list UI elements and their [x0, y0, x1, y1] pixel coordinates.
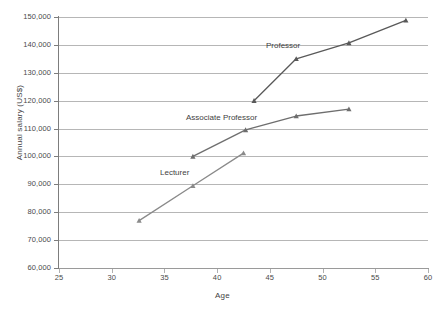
y-tick-mark: [54, 212, 59, 213]
x-tick-mark: [323, 269, 324, 273]
x-tick-mark: [164, 269, 165, 273]
x-tick-mark: [59, 269, 60, 273]
series-line: [254, 20, 406, 100]
x-tick-mark: [375, 269, 376, 273]
series-label-professor: Professor: [266, 41, 300, 50]
series-label-associate-professor: Associate Professor: [186, 113, 257, 122]
y-tick-mark: [54, 73, 59, 74]
series-lecturer: [137, 150, 247, 222]
x-tick-mark: [112, 269, 113, 273]
y-tick-mark: [54, 17, 59, 18]
data-point-marker: [241, 150, 246, 155]
x-tick-mark: [428, 269, 429, 273]
y-tick-mark: [54, 129, 59, 130]
series-layer: [0, 0, 445, 311]
data-point-marker: [403, 18, 408, 23]
y-tick-mark: [54, 45, 59, 46]
y-tick-mark: [54, 156, 59, 157]
series-label-lecturer: Lecturer: [160, 168, 189, 177]
series-professor: [251, 18, 408, 103]
y-tick-mark: [54, 101, 59, 102]
y-tick-mark: [54, 184, 59, 185]
salary-by-age-line-chart: Annual salary (US$) Age 60,00070,00080,0…: [0, 0, 445, 311]
x-tick-mark: [270, 269, 271, 273]
y-tick-mark: [54, 240, 59, 241]
x-tick-mark: [217, 269, 218, 273]
